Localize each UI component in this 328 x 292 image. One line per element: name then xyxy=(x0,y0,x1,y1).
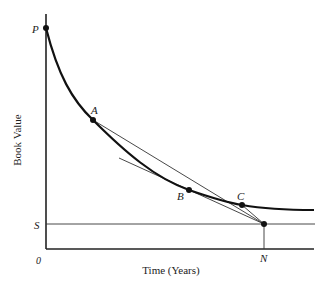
point-c xyxy=(239,202,245,208)
label-s: S xyxy=(34,219,40,231)
point-a xyxy=(90,117,96,123)
y-axis-label: Book Value xyxy=(11,114,23,166)
label-p: P xyxy=(31,23,39,35)
chord-a-n xyxy=(93,120,264,224)
label-a: A xyxy=(90,104,98,116)
book-value-diagram: P A B C N S 0 Book Value Time (Years) xyxy=(0,0,328,292)
book-value-curve xyxy=(46,28,314,210)
point-n xyxy=(261,221,267,227)
point-b xyxy=(186,187,192,193)
point-p xyxy=(43,25,49,31)
label-c: C xyxy=(237,190,245,202)
x-axis-label: Time (Years) xyxy=(142,264,200,277)
label-n: N xyxy=(259,252,268,264)
label-b: B xyxy=(177,190,184,202)
label-origin: 0 xyxy=(36,255,41,266)
